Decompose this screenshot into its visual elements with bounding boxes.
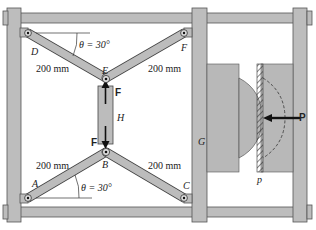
label-point-c: C (183, 180, 190, 191)
label-point-e: E (101, 65, 108, 76)
left-top-bracket (3, 11, 8, 25)
angle-arc-bottom (75, 175, 79, 198)
bottom-frame-bar (8, 207, 308, 217)
label-hydraulic-h: H (116, 112, 125, 123)
left-frame-post (7, 8, 21, 222)
label-angle-bottom: θ = 30° (81, 182, 112, 193)
left-bottom-bracket (3, 205, 8, 219)
label-length-ef: 200 mm (148, 63, 181, 74)
label-length-bc: 200 mm (148, 160, 181, 171)
angle-arc-top (73, 33, 77, 56)
label-length-de: 200 mm (36, 63, 69, 74)
force-f-bottom-arrowhead-icon (102, 141, 110, 149)
label-point-a: A (31, 178, 39, 189)
label-point-b: B (102, 159, 108, 170)
label-angle-top: θ = 30° (79, 39, 110, 50)
label-length-ab: 200 mm (36, 160, 69, 171)
right-top-bracket (307, 11, 312, 25)
left-press-block (207, 64, 239, 172)
label-plate-p: p (256, 174, 262, 185)
hatched-plate (257, 64, 263, 172)
label-force-f-bottom: F (91, 137, 97, 148)
g-frame-post (192, 8, 207, 222)
label-point-d: D (30, 46, 39, 57)
label-force-p: P (299, 112, 306, 123)
mechanism-diagram: P p G θ = 30° θ = 30° D F E B A C 2 (0, 0, 316, 230)
label-frame-g: G (198, 136, 205, 147)
right-bottom-bracket (307, 205, 312, 219)
label-force-f-top: F (115, 87, 121, 98)
top-frame-bar (8, 13, 308, 23)
label-point-f: F (180, 42, 188, 53)
member-cb (106, 152, 184, 198)
